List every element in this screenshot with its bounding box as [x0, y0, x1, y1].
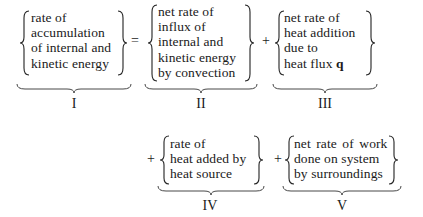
term-I-text: rate of accumulation of internal and kin…	[31, 10, 111, 71]
right-brace-icon	[254, 135, 264, 185]
right-brace-icon	[245, 4, 255, 82]
heat-flux-vector-symbol: q	[336, 56, 344, 71]
underbrace-icon	[273, 84, 377, 94]
term-IV-text: rate of heat added by heat source	[170, 136, 246, 182]
term-II-text: net rate of influx of internal and kinet…	[158, 4, 236, 80]
plus-operator: +	[274, 151, 282, 167]
right-brace-icon	[366, 10, 376, 76]
left-brace-icon	[20, 10, 30, 76]
underbrace-icon	[145, 84, 257, 94]
underbrace-icon	[283, 186, 401, 196]
right-brace-icon	[118, 10, 128, 76]
equals-operator: =	[131, 33, 139, 49]
term-label-II: II	[196, 96, 205, 112]
term-V-text: net rate of work done on system by surro…	[294, 136, 387, 182]
term-label-IV: IV	[203, 198, 218, 214]
term-label-I: I	[72, 96, 77, 112]
right-brace-icon	[389, 135, 399, 185]
term-label-V: V	[337, 198, 347, 214]
plus-operator: +	[147, 151, 155, 167]
plus-operator: +	[262, 33, 270, 49]
term-label-III: III	[318, 96, 332, 112]
underbrace-icon	[17, 84, 131, 94]
left-brace-icon	[160, 135, 170, 185]
term-III-text: net rate of heat addition due to heat fl…	[284, 10, 355, 71]
left-brace-icon	[148, 4, 158, 82]
underbrace-icon	[158, 186, 264, 196]
